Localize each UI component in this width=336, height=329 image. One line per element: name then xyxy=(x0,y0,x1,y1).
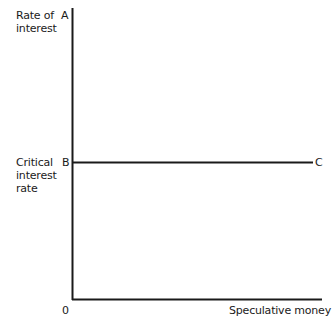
point-c-label: C xyxy=(315,156,323,169)
x-axis-label: Speculative money xyxy=(229,304,331,317)
critical-interest-rate-label: Critical interest rate xyxy=(16,156,57,195)
origin-label: 0 xyxy=(62,304,69,317)
point-a-label: A xyxy=(61,9,69,22)
point-b-label: B xyxy=(62,156,70,169)
y-axis-label: Rate of interest xyxy=(16,9,57,35)
